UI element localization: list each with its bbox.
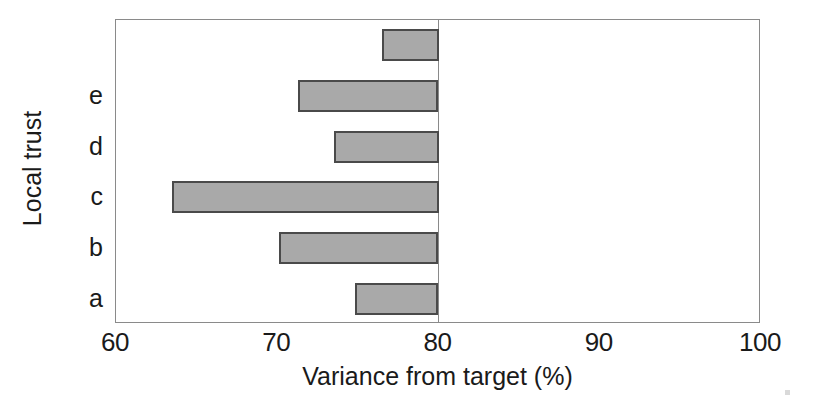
bar-unlabeled bbox=[382, 29, 438, 61]
y-axis-tick-labels: edcba bbox=[0, 0, 103, 413]
x-tick-label-60: 60 bbox=[101, 327, 129, 358]
bar-a bbox=[355, 283, 439, 315]
target-reference-line bbox=[438, 20, 440, 322]
x-tick-label-90: 90 bbox=[585, 327, 613, 358]
bar-b bbox=[279, 232, 439, 264]
x-tick-label-70: 70 bbox=[262, 327, 290, 358]
bar-d bbox=[334, 131, 439, 163]
x-tick-label-100: 100 bbox=[739, 327, 781, 358]
bar-e bbox=[298, 80, 438, 112]
y-tick-label-d: d bbox=[89, 131, 103, 160]
bar-chart-figure: Local trust edcba 60708090100 Variance f… bbox=[0, 0, 814, 413]
scan-artifact bbox=[785, 390, 790, 395]
plot-area bbox=[115, 19, 760, 323]
x-tick-label-80: 80 bbox=[424, 327, 452, 358]
x-axis-title: Variance from target (%) bbox=[115, 362, 760, 391]
y-tick-label-b: b bbox=[89, 233, 103, 262]
y-tick-label-c: c bbox=[91, 182, 104, 211]
y-tick-label-a: a bbox=[89, 283, 103, 312]
bar-c bbox=[172, 181, 438, 213]
y-tick-label-e: e bbox=[89, 81, 103, 110]
